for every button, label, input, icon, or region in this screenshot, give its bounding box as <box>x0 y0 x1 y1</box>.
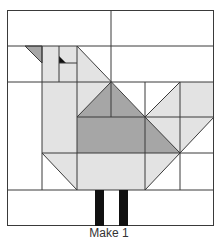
quilt-block-diagram <box>0 0 218 226</box>
leg-right <box>119 190 128 226</box>
beak <box>25 46 42 63</box>
caption: Make 1 <box>0 226 218 240</box>
leg-left <box>95 190 104 226</box>
